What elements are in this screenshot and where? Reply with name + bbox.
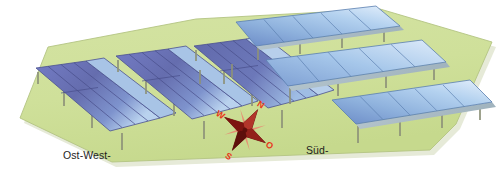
label-sued-line1: Süd-	[306, 144, 363, 157]
label-ost-west-line1: Ost-West-	[63, 149, 120, 162]
label-ost-west: Ost-West- Ausrichtung	[63, 124, 120, 172]
label-sued: Süd- Ausrichtung	[306, 119, 363, 172]
solar-park-illustration: N O S W Ost-West- Ausrichtung Süd- Ausri…	[0, 0, 496, 172]
